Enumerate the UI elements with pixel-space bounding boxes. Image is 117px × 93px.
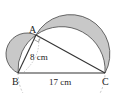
label-ab-length: 8 cm bbox=[30, 52, 48, 62]
label-b: B bbox=[12, 76, 19, 87]
label-c: C bbox=[102, 76, 109, 87]
label-bc-length: 17 cm bbox=[49, 77, 71, 87]
label-a: A bbox=[29, 24, 37, 35]
lune-ac bbox=[36, 15, 110, 73]
geometry-figure: A B C 8 cm 17 cm bbox=[0, 0, 117, 93]
